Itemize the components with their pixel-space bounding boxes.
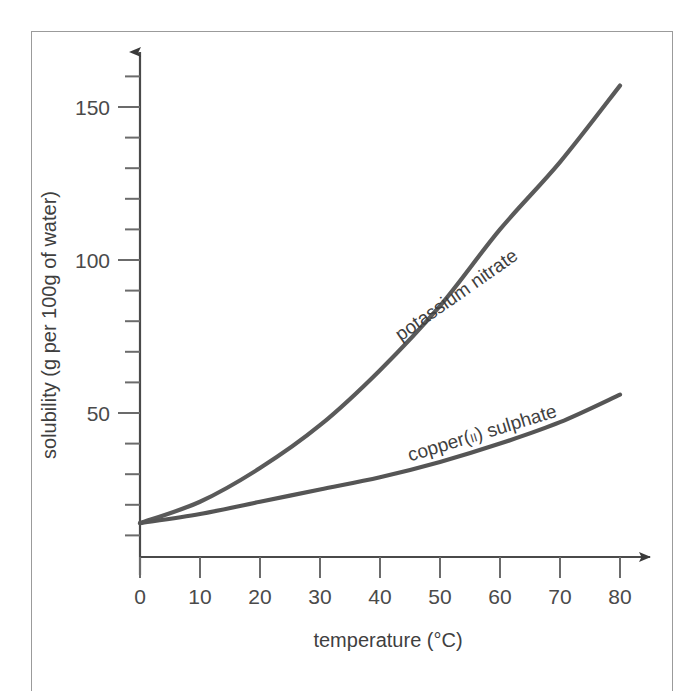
curve-potassium-nitrate: [140, 86, 620, 524]
y-axis: 50 100 150 solubility (g per 100g of wat…: [38, 52, 140, 575]
x-axis-ticks: [140, 557, 620, 578]
plot-curves: [140, 86, 620, 524]
x-tick-label-0: 0: [134, 585, 146, 608]
series-label-copper-sulphate-prefix: copper(: [405, 426, 473, 465]
x-tick-label-20: 20: [248, 585, 271, 608]
x-tick-label-80: 80: [608, 585, 631, 608]
y-axis-minor-ticks: [125, 76, 140, 535]
x-tick-label-40: 40: [368, 585, 391, 608]
x-tick-label-30: 30: [308, 585, 331, 608]
x-tick-label-70: 70: [548, 585, 571, 608]
y-axis-major-ticks: [118, 107, 140, 413]
y-tick-label-100: 100: [75, 249, 110, 272]
series-label-potassium-nitrate: potassium nitrate: [391, 245, 522, 345]
x-tick-label-10: 10: [188, 585, 211, 608]
x-axis-title: temperature (°C): [313, 629, 462, 651]
x-tick-label-50: 50: [428, 585, 451, 608]
svg-text:potassium nitrate: potassium nitrate: [391, 245, 522, 345]
y-tick-label-50: 50: [87, 402, 110, 425]
series-label-potassium-nitrate-text: potassium nitrate: [391, 245, 522, 345]
y-tick-label-150: 150: [75, 96, 110, 119]
x-tick-label-60: 60: [488, 585, 511, 608]
y-axis-title: solubility (g per 100g of water): [38, 191, 60, 459]
x-axis: 0 10 20 30 40 50 60 70 80 temperature (°…: [134, 557, 650, 651]
